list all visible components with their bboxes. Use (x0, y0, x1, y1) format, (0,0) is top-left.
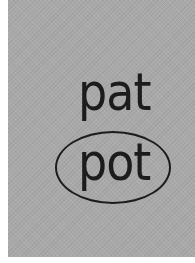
word-card: pat pot (8, 0, 195, 257)
word-pat: pat (78, 66, 150, 118)
word-pot-circled: pot (78, 136, 150, 188)
